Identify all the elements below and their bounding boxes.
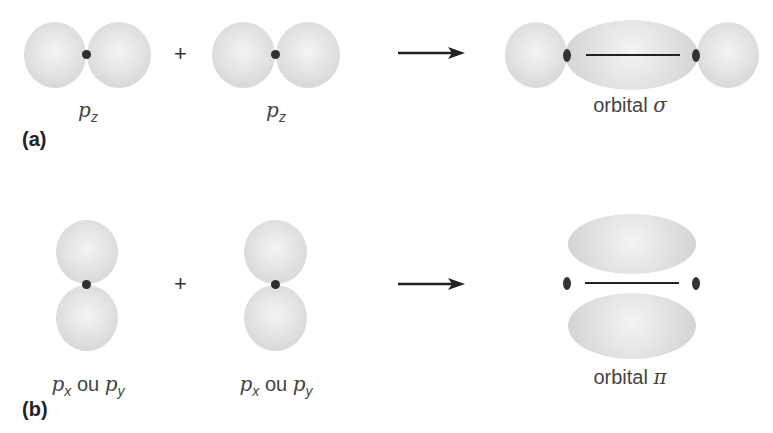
outer-lobe-right — [697, 22, 759, 88]
nucleus-dot — [82, 280, 91, 289]
nucleus-dot — [82, 50, 91, 59]
panel-label-a: (a) — [22, 128, 46, 151]
nucleus-dot-left — [563, 49, 571, 62]
lobe-left — [24, 22, 86, 88]
arrow-right-icon — [396, 46, 466, 60]
label-orbital-pi: orbital π — [593, 365, 666, 389]
nucleus-dot — [271, 50, 280, 59]
label-px-ou-py-1: px ou py — [52, 372, 125, 399]
nucleus-dot-right — [692, 277, 700, 290]
lobe-top — [244, 220, 307, 284]
plus-sign: + — [174, 273, 187, 295]
nucleus-dot-left — [563, 277, 571, 290]
label-pz-1: pz — [78, 98, 98, 125]
label-px-ou-py-2: px ou py — [240, 372, 313, 399]
lobe-bottom — [56, 285, 118, 351]
lobe-bottom — [244, 285, 307, 351]
label-orbital-sigma: orbital σ — [593, 93, 667, 117]
bond-line — [585, 282, 679, 284]
lobe-left — [212, 22, 275, 88]
plus-sign: + — [174, 43, 187, 65]
nucleus-dot-right — [692, 49, 700, 62]
arrow-right-icon — [396, 277, 466, 291]
nucleus-dot — [271, 280, 280, 289]
upper-lobe — [568, 214, 696, 274]
outer-lobe-left — [505, 22, 567, 88]
lower-lobe — [568, 293, 696, 359]
lobe-right — [87, 22, 151, 88]
lobe-right — [276, 22, 340, 88]
label-pz-2: pz — [266, 98, 286, 125]
bond-line — [586, 54, 680, 56]
panel-label-b: (b) — [22, 398, 48, 421]
lobe-top — [56, 220, 118, 284]
